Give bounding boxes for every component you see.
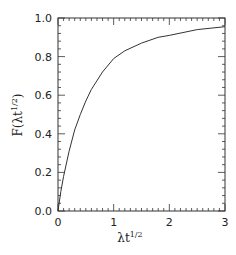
- y-tick-label: 0.2: [35, 166, 53, 179]
- y-tick-label: 0.6: [35, 89, 53, 102]
- x-axis-label: λt1/2: [117, 230, 142, 245]
- y-tick-label: 0.0: [35, 205, 53, 218]
- y-tick-label: 0.8: [35, 51, 53, 64]
- y-axis-label: F(λt1/2): [10, 94, 25, 137]
- axis-ticks: [58, 18, 225, 211]
- x-tick-label: 1: [110, 216, 117, 229]
- x-tick-label: 0: [55, 216, 62, 229]
- y-tick-labels: 0.00.20.40.60.81.0: [35, 12, 53, 218]
- x-tick-labels: 0123: [55, 216, 229, 229]
- x-tick-label: 2: [166, 216, 173, 229]
- data-line: [58, 27, 225, 211]
- x-tick-label: 3: [222, 216, 229, 229]
- y-tick-label: 1.0: [35, 12, 53, 25]
- plot-frame: [58, 18, 225, 211]
- line-chart: 0123 0.00.20.40.60.81.0 λt1/2 F(λt1/2): [0, 0, 236, 255]
- y-tick-label: 0.4: [35, 128, 53, 141]
